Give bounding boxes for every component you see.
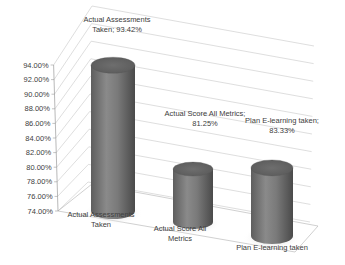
data-label: Plan E-learning taken; [245,116,319,125]
y-tick-label: 86.00% [25,119,51,128]
x-category-label: Actual Score All [154,224,207,233]
x-category-label: Actual Assessments [67,210,134,219]
cylinder-bar-chart: 74.00%76.00%78.00%80.00%82.00%84.00%86.0… [0,0,345,265]
x-category-label: Plan E-learning taken [236,243,308,252]
y-tick-label: 76.00% [27,192,53,201]
y-tick-label: 82.00% [26,148,52,157]
data-label: Taken; 93.42% [92,25,142,34]
y-tick-label: 74.00% [28,207,54,216]
data-label: 81.25% [192,119,218,128]
side-wall [54,6,92,211]
y-tick-label: 84.00% [25,134,51,143]
cylinder-bar [83,57,143,225]
y-tick-label: 92.00% [24,75,50,84]
y-tick-label: 88.00% [24,104,50,113]
x-category-label: Taken [91,220,111,229]
x-category-label: Metrics [168,234,192,243]
y-tick-label: 90.00% [24,90,50,99]
y-tick-label: 78.00% [27,177,53,186]
bars [83,57,301,250]
y-axis: 74.00%76.00%78.00%80.00%82.00%84.00%86.0… [23,61,58,216]
data-label: Actual Assessments [83,15,150,24]
y-tick-label: 80.00% [26,163,52,172]
cylinder-bar [243,160,301,250]
y-tick-label: 94.00% [23,61,49,70]
data-label: Actual Score All Metrics; [165,109,246,118]
data-label: 83.33% [269,126,295,135]
